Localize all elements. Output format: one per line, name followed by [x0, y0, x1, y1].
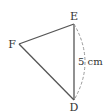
vertex-label-E: E [70, 10, 78, 23]
triangle-diagram: E F D 5 cm [0, 0, 106, 112]
vertex-label-D: D [70, 101, 79, 112]
side-length-label: 5 cm [78, 56, 103, 67]
side-FD [19, 44, 74, 100]
side-EF [19, 24, 74, 44]
vertex-label-F: F [8, 38, 16, 51]
